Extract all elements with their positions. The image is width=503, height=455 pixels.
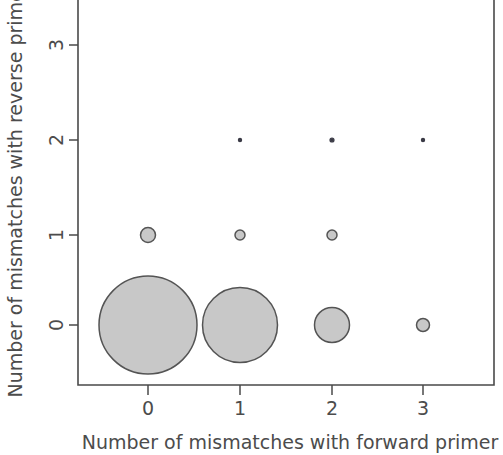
x-axis-tick-labels: 0 1 2 3: [142, 397, 429, 419]
bubble-x1-y1: [235, 230, 245, 240]
y-tick-label-1: 1: [45, 229, 67, 241]
y-axis-ticks: [69, 45, 78, 325]
bubble-x2-y1: [327, 230, 337, 240]
x-tick-label-1: 1: [234, 397, 246, 419]
bubble-x3-y0: [417, 319, 430, 332]
bubble-x1-y0: [203, 288, 278, 363]
y-tick-label-0: 0: [45, 319, 67, 331]
x-tick-label-3: 3: [417, 397, 429, 419]
bubble-x1-y2: [238, 138, 241, 141]
bubble-x0-y0: [99, 276, 197, 374]
bubble-x0-y1: [141, 228, 156, 243]
bubble-x2-y2: [330, 138, 334, 142]
y-axis-tick-labels: 3 2 1 0: [45, 39, 67, 331]
bubble-x2-y0: [315, 308, 350, 343]
y-axis-title: Number of mismatches with reverse primer: [4, 0, 26, 398]
bubble-chart-figure: 3 2 1 0 0 1 2 3 Number of mismatches wit…: [0, 0, 503, 455]
x-tick-label-2: 2: [326, 397, 338, 419]
bubble-series: [99, 138, 430, 374]
x-axis-ticks: [148, 385, 423, 395]
x-tick-label-0: 0: [142, 397, 154, 419]
bubble-x3-y2: [421, 138, 424, 141]
y-tick-label-3: 3: [45, 39, 67, 51]
x-axis-title: Number of mismatches with forward primer: [82, 431, 499, 453]
plot-canvas: 3 2 1 0 0 1 2 3 Number of mismatches wit…: [0, 0, 503, 455]
y-tick-label-2: 2: [45, 134, 67, 146]
